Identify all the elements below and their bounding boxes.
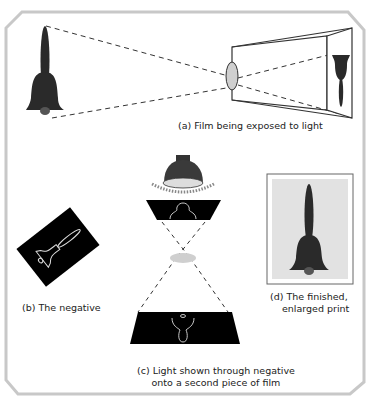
caption-panel-c-line2: onto a second piece of film [137,377,295,389]
caption-panel-a: (a) Film being exposed to light [178,120,323,132]
caption-panel-c: (c) Light shown through negative onto a … [137,365,295,389]
enlarger-lens-icon [170,253,196,263]
panel-d-print [267,174,353,284]
caption-panel-d-line1: (d) The finished, [270,291,349,303]
caption-panel-b: (b) The negative [22,302,101,314]
caption-panel-d-line2: enlarged print [270,303,349,315]
lens-icon [226,62,238,90]
caption-panel-c-line1: (c) Light shown through negative [137,365,295,377]
caption-panel-d: (d) The finished, enlarged print [270,291,349,315]
photographic-process-diagram: (a) Film being exposed to light (b) The … [0,0,368,398]
diagram-canvas [0,0,368,398]
